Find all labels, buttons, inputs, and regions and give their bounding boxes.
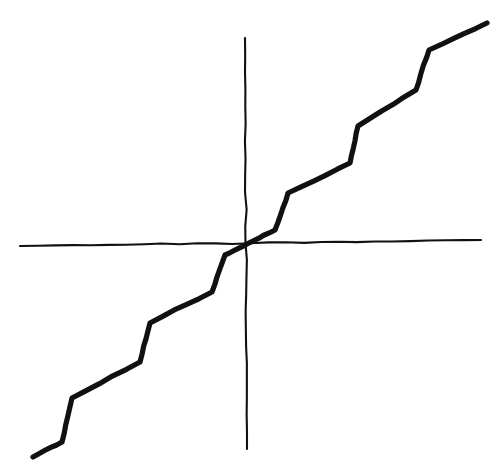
figure-canvas — [0, 0, 502, 473]
staircase-plot-svg — [0, 0, 502, 473]
